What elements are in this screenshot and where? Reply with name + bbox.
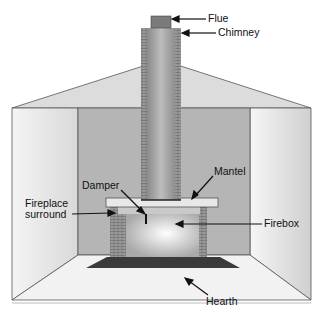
label-chimney: Chimney <box>218 27 259 38</box>
label-damper: Damper <box>82 180 119 191</box>
label-flue: Flue <box>208 13 228 24</box>
label-firebox: Firebox <box>264 218 299 229</box>
label-fireplace-surround-2: surround <box>25 209 66 220</box>
flue <box>151 16 171 28</box>
fireplace-diagram: Flue Chimney Damper Mantel Fireplace sur… <box>0 0 323 323</box>
label-hearth: Hearth <box>206 296 238 307</box>
label-mantel: Mantel <box>214 166 246 177</box>
hearth <box>86 257 240 268</box>
diagram-drawing <box>0 0 323 323</box>
firebox <box>126 214 199 257</box>
